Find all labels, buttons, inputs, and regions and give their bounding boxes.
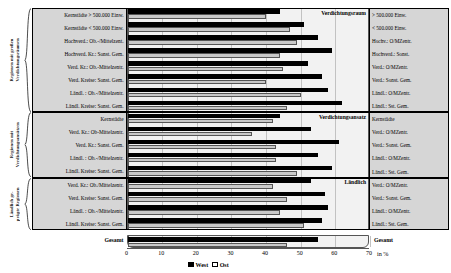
short-label: Verd.: Sonst. Gem. <box>370 74 448 87</box>
legend-label-ost: Ost <box>220 262 229 268</box>
x-tick-30: 30 <box>227 250 233 256</box>
bar-pair <box>128 35 369 45</box>
bar-ost <box>128 158 277 163</box>
total-plot-area <box>127 235 370 248</box>
short-label: Hochverd.: Sonst. <box>370 48 448 61</box>
category-label: Verd. Kr.: Ob./Mittelzentr. <box>33 179 126 192</box>
short-label: Ländl.: O/MZentr. <box>370 153 448 166</box>
bar-pair <box>128 48 369 58</box>
category-label: Verd. Kreise: Sonst. Gem. <box>33 192 126 205</box>
group-brace-1 <box>24 112 31 177</box>
bar-ost <box>128 53 280 58</box>
bar-pair <box>128 61 369 71</box>
group-brace-0 <box>24 8 31 112</box>
group-side-label-0: Regionen mit großen Verdichtungsräumen <box>6 8 23 112</box>
group-side-label-1: Regionen mit Verdichtungsansätzen <box>6 112 23 177</box>
bar-pair <box>128 205 369 215</box>
category-label-box-1: KernstädteVerd. Kr.: Ob-Mittelzentr.Verd… <box>32 112 127 177</box>
legend-swatch-west <box>188 262 194 267</box>
x-tick-60: 60 <box>331 250 337 256</box>
short-label: Ländl.: Sst. Gem. <box>370 218 448 231</box>
x-axis-label: in % <box>377 250 389 257</box>
legend-label-west: West <box>196 262 209 268</box>
category-label: Kernstädte < 500.000 Einw. <box>33 22 126 35</box>
short-label: Verd.: O/MZentr. <box>370 179 448 192</box>
category-label: Hochverd. Kr.: Sonst. Gem. <box>33 48 126 61</box>
bar-west <box>128 153 319 158</box>
short-label: Hochv.: O/MZentr. <box>370 35 448 48</box>
short-label: Ländl.: O/MZentr. <box>370 87 448 100</box>
bar-pair <box>128 140 369 150</box>
bar-ost <box>128 223 305 228</box>
bar-west <box>128 35 319 40</box>
bar-west <box>128 218 322 223</box>
band-caption: Verdichtungsansatz <box>127 114 367 120</box>
bar-ost <box>128 132 253 137</box>
bar-pair <box>128 88 369 98</box>
category-label: Verd. Kr.: Ob.-Mittelzentr. <box>33 61 126 74</box>
category-label: Kernstädte > 500.000 Einw. <box>33 9 126 22</box>
short-label-box-0: > 500.000 Einw.< 500.000 Einw.Hochv.: O/… <box>369 8 449 112</box>
short-label: Kernstädte <box>370 113 448 126</box>
bar-west <box>128 88 329 93</box>
legend-item-ost: Ost <box>212 262 229 268</box>
bar-west <box>128 48 332 53</box>
category-label: Kernstädte <box>33 113 126 126</box>
bar-west <box>128 166 332 171</box>
category-label: Verd. Kr.: Sonst. Gem. <box>33 139 126 152</box>
total-gridline-70 <box>370 236 371 247</box>
total-gridline-60 <box>335 236 336 247</box>
bar-ost <box>128 210 280 215</box>
bar-pair <box>128 166 369 176</box>
bar-pair <box>128 22 369 32</box>
bar-west <box>128 101 343 106</box>
x-tick-0: 0 <box>125 250 128 256</box>
category-label-box-2: Verd. Kr.: Ob./Mittelzentr.Verd. Kreise:… <box>32 178 127 230</box>
group-side-label-2: Ländlich ge- prägte Regionen <box>6 178 23 230</box>
short-label: < 500.000 Einw. <box>370 22 448 35</box>
bar-pair <box>128 74 369 84</box>
band-caption: Ländlich <box>127 179 367 185</box>
bar-west <box>128 205 329 210</box>
chart-root: VerdichtungsraumVerdichtungsansatzLändli… <box>0 0 451 273</box>
group-brace-2 <box>24 178 31 230</box>
short-label-box-2: Verd.: O/MZentr.Verd.: Sonst. Gem.Ländl.… <box>369 178 449 230</box>
bar-west <box>128 74 322 79</box>
bar-west <box>128 192 325 197</box>
total-label: Gesamt <box>32 237 124 243</box>
category-label: Ländl. : Ob.-/Mittelzentr. <box>33 205 126 218</box>
bar-ost <box>128 80 267 85</box>
category-label: Hochverd.: Ob.-/Mittelzent. <box>33 35 126 48</box>
bar-west <box>128 127 312 132</box>
bar-pair <box>128 192 369 202</box>
bar-ost <box>128 67 284 72</box>
legend: WestOst <box>188 262 229 268</box>
short-label: Verd.: O/MZentr. <box>370 126 448 139</box>
band-caption: Verdichtungsraum <box>127 10 367 16</box>
short-label: > 500.000 Einw. <box>370 9 448 22</box>
total-bar-ost <box>128 243 287 248</box>
x-tick-10: 10 <box>158 250 164 256</box>
bar-ost <box>128 197 287 202</box>
short-label: Verd.: Sonst. Gem. <box>370 192 448 205</box>
x-tick-70: 70 <box>366 250 372 256</box>
x-axis-line <box>127 248 370 249</box>
bar-pair <box>128 153 369 163</box>
category-label: Verd. Kr.: Ob-Mittelzentr. <box>33 126 126 139</box>
bar-ost <box>128 40 298 45</box>
category-label: Verd. Kreise: Sonst. Gem. <box>33 74 126 87</box>
legend-item-west: West <box>188 262 208 268</box>
x-tick-50: 50 <box>297 250 303 256</box>
category-label: Ländl. Kreise: Sonst. Gem. <box>33 218 126 231</box>
bar-ost <box>128 106 287 111</box>
bar-ost <box>128 145 277 150</box>
short-label-box-1: KernstädteVerd.: O/MZentr.Verd.: Sonst. … <box>369 112 449 177</box>
category-label-box-0: Kernstädte > 500.000 Einw.Kernstädte < 5… <box>32 8 127 112</box>
x-tick-40: 40 <box>262 250 268 256</box>
bar-west <box>128 22 305 27</box>
bar-ost <box>128 171 298 176</box>
legend-swatch-ost <box>212 262 218 267</box>
short-label: Verd.: O/MZentr. <box>370 61 448 74</box>
short-label: Ländl.: O/MZentr. <box>370 205 448 218</box>
x-tick-20: 20 <box>193 250 199 256</box>
